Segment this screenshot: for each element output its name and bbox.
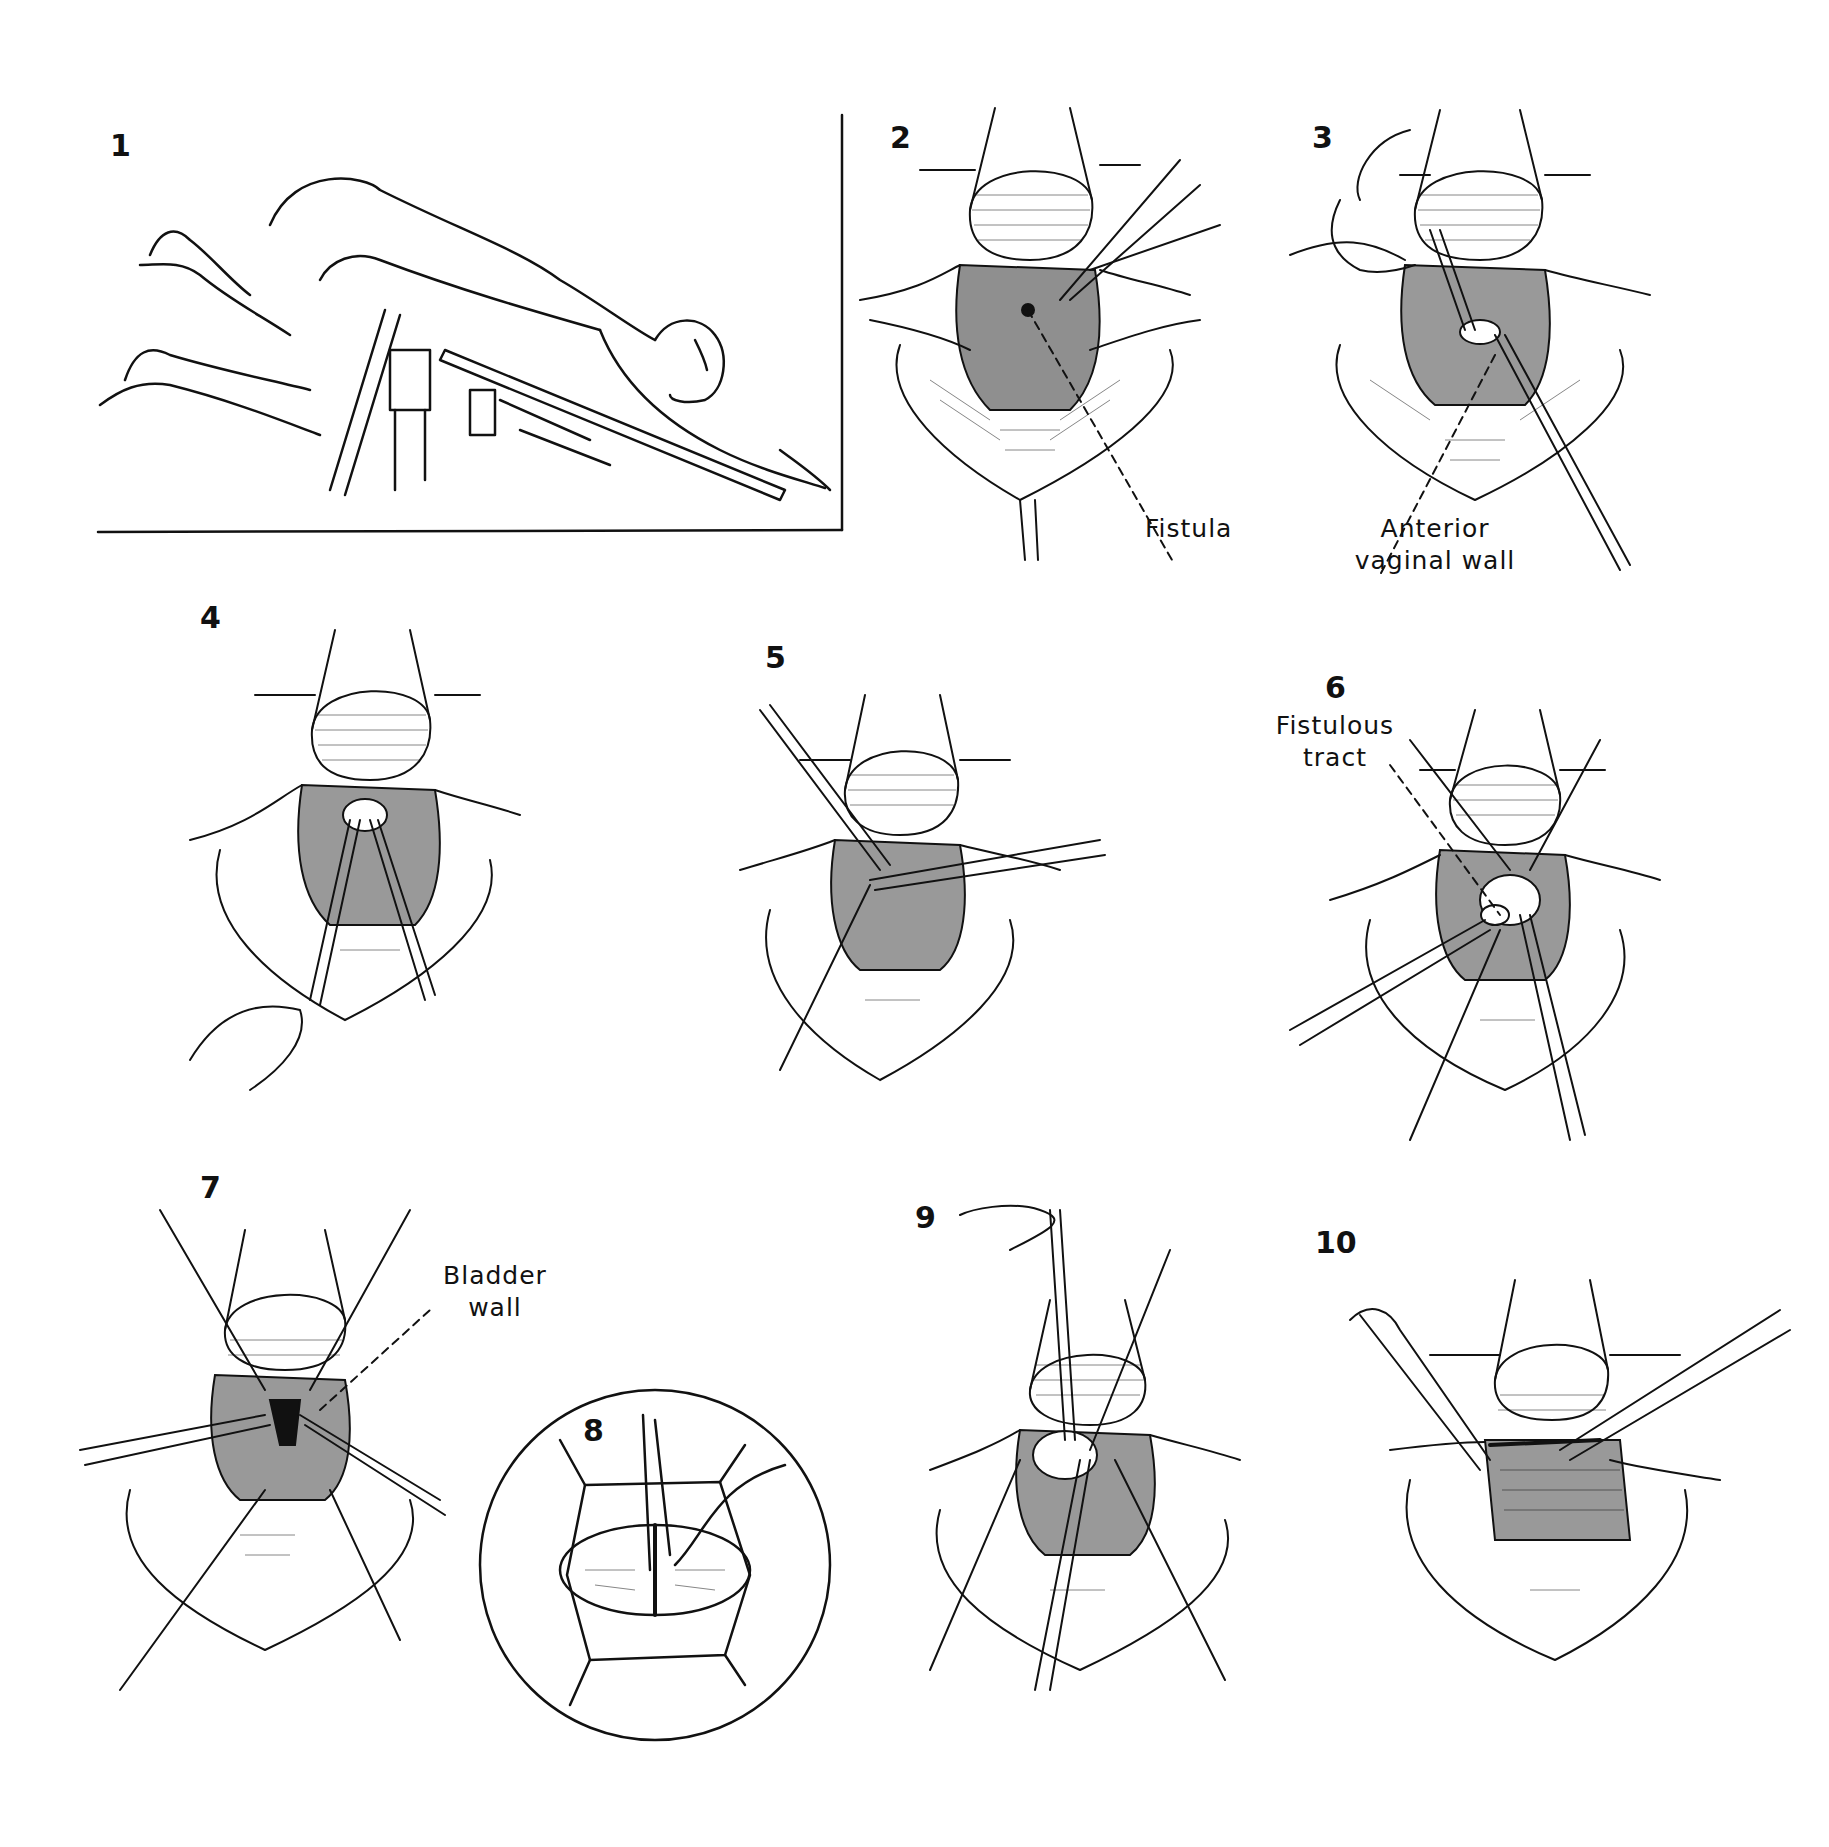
label-line-1: Anterior: [1381, 514, 1490, 543]
surgical-field-drawing: [900, 1190, 1280, 1710]
panel-3: 3 Anterior vaginal wall: [1280, 100, 1740, 590]
surgical-field-drawing: [80, 1170, 480, 1690]
surgical-field-drawing: [1290, 1220, 1790, 1720]
panel-number: 4: [200, 600, 221, 635]
label-line-2: wall: [468, 1293, 522, 1322]
panel-number: 5: [765, 640, 786, 675]
panel-number: 1: [110, 128, 131, 163]
panel-number: 10: [1315, 1225, 1357, 1260]
panel-2: 2 Fistula: [860, 100, 1280, 580]
surgical-field-drawing: [740, 640, 1120, 1140]
panel-number: 9: [915, 1200, 936, 1235]
panel-number: 6: [1325, 670, 1346, 705]
panel-number: 7: [200, 1170, 221, 1205]
panel-9: 9: [900, 1190, 1280, 1710]
surgical-field-drawing: [190, 600, 610, 1120]
panel-7: 7 Bladder wall: [80, 1170, 480, 1690]
panel-number: 8: [583, 1413, 604, 1448]
panel-1: 1: [80, 100, 860, 560]
panel-6: 6 Fistulous tract: [1270, 670, 1670, 1170]
fistula-label: Fistula: [1145, 513, 1232, 545]
surgical-field-drawing: [860, 100, 1280, 580]
label-line-1: Bladder: [443, 1261, 547, 1290]
fistulous-tract-label: Fistulous tract: [1255, 710, 1415, 774]
patient-position-drawing: [80, 100, 860, 560]
panel-5: 5: [740, 640, 1120, 1140]
panel-10: 10: [1290, 1220, 1790, 1720]
bladder-closure-inset-drawing: [475, 1385, 835, 1745]
label-line-2: tract: [1303, 743, 1367, 772]
bladder-wall-label: Bladder wall: [435, 1260, 555, 1324]
anterior-vaginal-wall-label: Anterior vaginal wall: [1320, 513, 1550, 577]
label-line-1: Fistulous: [1276, 711, 1394, 740]
panel-number: 2: [890, 120, 911, 155]
panel-4: 4: [190, 600, 610, 1120]
label-line-2: vaginal wall: [1355, 546, 1516, 575]
panel-8-inset: 8: [475, 1385, 835, 1745]
panel-number: 3: [1312, 120, 1333, 155]
